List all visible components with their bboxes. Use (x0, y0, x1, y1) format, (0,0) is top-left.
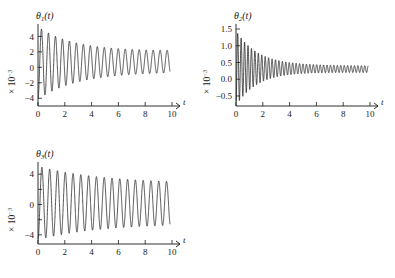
chart-title-group-2: θ2(t) (234, 10, 252, 22)
x-tick-label-1-3: 6 (116, 109, 121, 119)
y-tick-labels-3: −404 (24, 169, 34, 240)
chart-svg-theta1: θ1(t) × 10−3 −4−2024 0246810 t (0, 2, 190, 137)
x-tick-label-1-4: 8 (143, 109, 148, 119)
y-tick-label-3-2: 0 (30, 200, 35, 210)
x-tick-label-3-0: 0 (36, 247, 41, 257)
chart-title-group-3: θ3(t) (36, 148, 54, 160)
y-tick-label-1-4: 4 (30, 32, 35, 42)
y-tick-label-3-4: 4 (30, 169, 35, 179)
x-tick-label-3-4: 8 (143, 247, 148, 257)
x-tick-label-2-4: 8 (341, 109, 346, 119)
chart-svg-theta3: θ3(t) × 10−3 −404 0246810 t (0, 140, 190, 275)
y-tick-label-1-2: 0 (30, 63, 35, 73)
figure-container: θ1(t) × 10−3 −4−2024 0246810 t θ2(t) (0, 0, 395, 278)
x-tick-marks-3 (38, 240, 172, 244)
y-tick-label-1-1: −2 (24, 78, 34, 88)
y-tick-labels-2: −0.50.00.51.01.5 (216, 24, 233, 101)
x-tick-label-1-5: 10 (168, 109, 178, 119)
chart-panel-theta1: θ1(t) × 10−3 −4−2024 0246810 t (0, 2, 190, 137)
data-curve-theta3 (38, 167, 170, 239)
y-axis-label-group-1: × 10−3 (6, 70, 17, 94)
x-tick-label-2-1: 2 (261, 109, 266, 119)
x-tick-label-3-3: 6 (116, 247, 121, 257)
chart-panel-theta2: θ2(t) × 10−3 −0.50.00.51.01.5 0246810 t (198, 2, 388, 137)
x-tick-label-1-1: 2 (63, 109, 68, 119)
y-tick-label-2-1: 0.0 (221, 74, 233, 84)
x-tick-marks-1 (38, 102, 172, 106)
chart-title-group-1: θ1(t) (36, 10, 54, 22)
y-tick-label-2-3: 1.0 (221, 41, 233, 51)
y-axis-label-theta1: × 10−3 (6, 70, 17, 94)
x-tick-labels-1: 0246810 (36, 109, 177, 119)
y-tick-label-2-0: −0.5 (216, 91, 233, 101)
x-axis-name-3: t (183, 235, 186, 245)
x-tick-label-3-2: 4 (89, 247, 94, 257)
y-axis-label-theta2: × 10−3 (201, 70, 212, 94)
data-curve-theta1 (38, 29, 170, 98)
x-tick-label-1-2: 4 (89, 109, 94, 119)
x-tick-marks-2 (236, 102, 370, 106)
chart-panel-theta3: θ3(t) × 10−3 −404 0246810 t (0, 140, 190, 275)
x-tick-label-2-5: 10 (366, 109, 376, 119)
x-axis-name-1: t (183, 97, 186, 107)
chart-title-theta1: θ1(t) (36, 10, 54, 22)
y-tick-labels-1: −4−2024 (24, 32, 34, 104)
y-axis-label-theta3: × 10−3 (6, 208, 17, 232)
y-axis-label-group-3: × 10−3 (6, 208, 17, 232)
x-axis-name-2: t (381, 97, 384, 107)
y-tick-label-2-4: 1.5 (221, 24, 233, 34)
x-tick-label-3-1: 2 (63, 247, 68, 257)
x-tick-label-3-5: 10 (168, 247, 178, 257)
x-tick-label-2-0: 0 (234, 109, 239, 119)
y-tick-label-1-3: 2 (30, 47, 35, 57)
x-tick-label-1-0: 0 (36, 109, 41, 119)
chart-title-theta2: θ2(t) (234, 10, 252, 22)
x-tick-labels-3: 0246810 (36, 247, 177, 257)
y-tick-label-2-2: 0.5 (221, 58, 233, 68)
y-tick-label-1-0: −4 (24, 93, 34, 103)
x-tick-label-2-3: 6 (314, 109, 319, 119)
y-axis-label-group-2: × 10−3 (201, 70, 212, 94)
chart-svg-theta2: θ2(t) × 10−3 −0.50.00.51.01.5 0246810 t (198, 2, 388, 137)
x-tick-label-2-2: 4 (287, 109, 292, 119)
chart-title-theta3: θ3(t) (36, 148, 54, 160)
x-tick-labels-2: 0246810 (234, 109, 375, 119)
y-tick-label-3-0: −4 (24, 230, 34, 240)
data-curve-theta2 (236, 33, 368, 101)
